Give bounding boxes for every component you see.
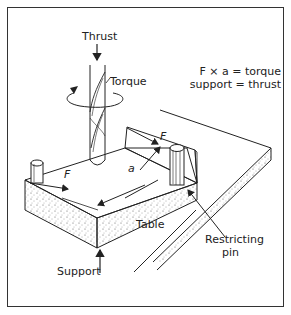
torque-arrow bbox=[67, 86, 123, 107]
restricting-pin-label-line1: Restricting bbox=[205, 233, 264, 246]
table-label: Table bbox=[136, 218, 164, 231]
restricting-pin bbox=[170, 145, 184, 186]
distance-label: a bbox=[128, 162, 135, 175]
workpiece-block bbox=[25, 127, 197, 248]
restricting-pin-label-line2: pin bbox=[222, 246, 239, 259]
drill-bit bbox=[90, 65, 105, 165]
force-label-left: F bbox=[64, 168, 70, 181]
thrust-label: Thrust bbox=[82, 30, 117, 43]
support-label: Support bbox=[57, 265, 100, 278]
left-pin bbox=[31, 160, 43, 183]
force-label-right: F bbox=[160, 130, 166, 143]
equation-support: support = thrust bbox=[190, 78, 281, 91]
torque-label: Torque bbox=[110, 75, 147, 88]
equation-torque: F × a = torque bbox=[199, 65, 281, 78]
drill-workpiece-illustration bbox=[0, 0, 291, 315]
